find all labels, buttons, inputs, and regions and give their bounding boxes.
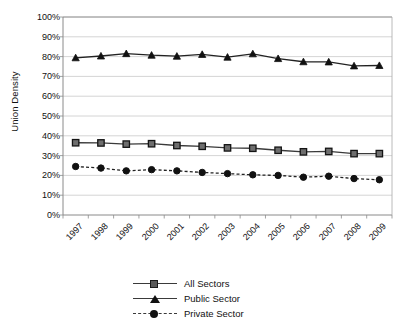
legend-marker-square-icon	[150, 280, 158, 288]
legend-key	[133, 293, 177, 304]
legend-label: All Sectors	[184, 278, 229, 289]
x-axis-tick-labels: 1997199819992000200120022003200420052006…	[0, 0, 406, 322]
union-density-chart: Union Density 0%10%20%30%40%50%60%70%80%…	[0, 0, 406, 322]
legend-label: Private Sector	[184, 308, 244, 319]
legend-item-private-sector[interactable]: Private Sector	[133, 306, 333, 321]
legend-item-public-sector[interactable]: Public Sector	[133, 291, 333, 306]
legend-key	[133, 278, 177, 289]
legend-key	[133, 308, 177, 319]
legend-item-all-sectors[interactable]: All Sectors	[133, 276, 333, 291]
legend-marker-circle-icon	[150, 310, 158, 318]
legend-marker-triangle-icon	[150, 295, 160, 303]
legend-label: Public Sector	[184, 293, 240, 304]
x-axis-tick-label: 2009	[338, 221, 389, 272]
chart-legend: All SectorsPublic SectorPrivate Sector	[133, 276, 333, 321]
